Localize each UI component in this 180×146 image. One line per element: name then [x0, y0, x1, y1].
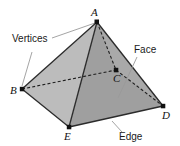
- vertex-label-C: C: [113, 73, 120, 84]
- vertex-dot-D: [161, 104, 166, 109]
- vertex-dot-A: [95, 20, 100, 25]
- pyramid-diagram: [0, 0, 180, 146]
- vertex-dot-B: [20, 87, 25, 92]
- vertex-dot-E: [67, 125, 72, 130]
- vertex-label-D: D: [162, 110, 170, 121]
- vertex-label-A: A: [91, 7, 98, 18]
- pyramid-figure: Vertices Face Edge A B C D E: [0, 0, 180, 146]
- vertex-label-B: B: [10, 85, 17, 96]
- annotation-face-label: Face: [134, 45, 156, 55]
- annotation-edge-label: Edge: [119, 132, 142, 142]
- annotation-vertices-label: Vertices: [12, 34, 48, 44]
- vertex-label-E: E: [64, 131, 71, 142]
